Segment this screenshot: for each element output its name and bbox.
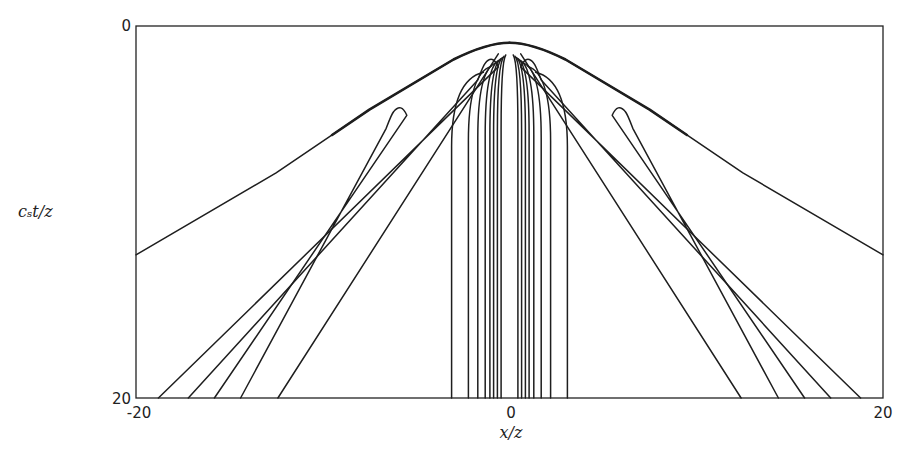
envelope-right bbox=[510, 43, 884, 255]
hairpin-loop-left-1 bbox=[214, 108, 406, 398]
vertical-contour bbox=[520, 61, 533, 399]
hairpin-loop-right-2 bbox=[521, 59, 861, 398]
wavefront-left bbox=[332, 43, 509, 135]
fan-line-right bbox=[521, 54, 741, 398]
x-axis-label: x/z bbox=[500, 423, 523, 442]
contour-chart: 0 20 -20 0 20 cₛt/z x/z bbox=[0, 0, 913, 461]
vertical-contour bbox=[468, 66, 491, 398]
x-tick-center: 0 bbox=[506, 404, 516, 422]
vertical-contour bbox=[485, 61, 498, 399]
vertical-contour bbox=[490, 59, 501, 398]
y-axis-label: cₛt/z bbox=[18, 202, 53, 221]
wavefront-right bbox=[510, 43, 687, 135]
hairpin-loop-right-3 bbox=[612, 108, 804, 398]
y-tick-top: 0 bbox=[121, 17, 131, 35]
plot-frame bbox=[136, 26, 883, 398]
contour-lines bbox=[136, 43, 883, 398]
vertical-contour bbox=[501, 55, 506, 398]
x-tick-left: -20 bbox=[127, 404, 152, 422]
hairpin-loop-left-0 bbox=[158, 59, 498, 398]
vertical-contour bbox=[478, 63, 495, 398]
fan-line-left bbox=[278, 54, 498, 398]
vertical-contour bbox=[524, 63, 541, 398]
vertical-contour bbox=[513, 55, 518, 398]
vertical-contour bbox=[528, 66, 551, 398]
x-tick-right: 20 bbox=[873, 404, 892, 422]
vertical-contour bbox=[518, 59, 529, 398]
envelope-left bbox=[136, 43, 510, 255]
